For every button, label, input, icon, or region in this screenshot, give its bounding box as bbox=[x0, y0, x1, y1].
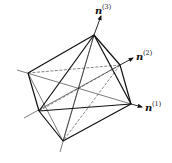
octahedron-diagram: n (3) n (2) n (1) bbox=[0, 0, 172, 163]
arrow-n3-icon bbox=[94, 16, 101, 35]
interior-edges bbox=[28, 35, 94, 141]
svg-text:(3): (3) bbox=[102, 3, 112, 11]
arrow-n2-icon bbox=[120, 58, 133, 65]
arrow-n1-icon bbox=[131, 104, 142, 107]
svg-text:(1): (1) bbox=[152, 100, 162, 108]
label-n3: n (3) bbox=[95, 3, 112, 16]
axis-n1-line bbox=[17, 70, 131, 104]
axis-arrows bbox=[94, 16, 142, 107]
svg-text:(2): (2) bbox=[143, 49, 153, 57]
label-n1: n (1) bbox=[145, 100, 162, 113]
label-n2: n (2) bbox=[136, 49, 153, 62]
